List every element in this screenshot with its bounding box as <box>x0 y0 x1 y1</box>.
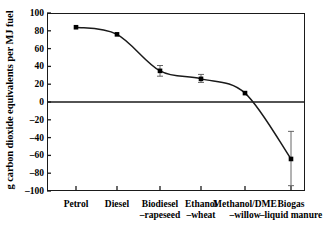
y-tick-label: –40 <box>18 133 44 142</box>
y-tick-label: 0 <box>18 98 44 107</box>
y-axis-tick-labels: 100 80 60 40 20 0 –20 –40 –60 –80 –100 <box>18 0 44 230</box>
y-tick-label: 80 <box>18 26 44 35</box>
y-tick-label: 20 <box>18 80 44 89</box>
y-tick-label: 100 <box>18 9 44 18</box>
x-category-line2: –rapeseed <box>140 210 181 221</box>
x-category-line2: –liquid manure <box>260 210 322 221</box>
y-tick-label: –100 <box>18 187 44 196</box>
y-tick-label: –80 <box>18 169 44 178</box>
x-category-label-biogas: Biogas –liquid manure <box>260 199 322 221</box>
chart-figure: g carbon dioxide equivalents per MJ fuel… <box>0 0 333 230</box>
x-category-label-petrol: Petrol <box>64 199 89 210</box>
x-category-line1: Biodiesel <box>142 199 178 209</box>
x-category-label-biodiesel: Biodiesel –rapeseed <box>140 199 181 221</box>
y-tick-label: –60 <box>18 151 44 160</box>
x-category-line1: Petrol <box>64 199 89 209</box>
y-tick-label: 40 <box>18 62 44 71</box>
y-axis-title: g carbon dioxide equivalents per MJ fuel <box>2 2 18 198</box>
x-category-line1: Biogas <box>278 199 305 209</box>
y-tick-label: –20 <box>18 115 44 124</box>
x-category-label-diesel: Diesel <box>105 199 129 210</box>
x-category-line1: Diesel <box>105 199 129 209</box>
plot-area <box>47 13 305 191</box>
y-tick-label: 60 <box>18 44 44 53</box>
